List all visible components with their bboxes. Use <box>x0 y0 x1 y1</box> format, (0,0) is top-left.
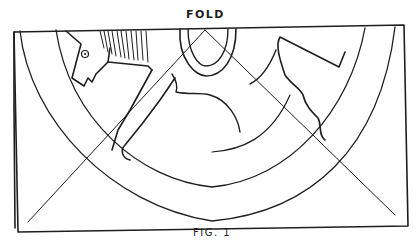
top-loop-inner <box>188 29 228 66</box>
horse-back-leg <box>122 78 175 160</box>
outer-border-rectangle <box>14 25 408 232</box>
middle-arc <box>56 28 365 187</box>
horse-leg-joint <box>172 74 240 132</box>
inner-arc <box>212 95 290 152</box>
horse-body <box>108 62 152 70</box>
horse-mane <box>100 31 148 62</box>
fold-diagram-drawing <box>0 0 419 245</box>
fold-label: FOLD <box>186 8 225 21</box>
right-leg-shape <box>250 50 276 84</box>
fold-line-left <box>28 30 205 222</box>
figure-caption: FIG. 1 <box>193 227 231 238</box>
outer-arc <box>20 27 395 221</box>
horse-front-leg <box>112 70 152 150</box>
horse-head <box>66 31 110 86</box>
right-wavy-shape <box>278 37 345 140</box>
